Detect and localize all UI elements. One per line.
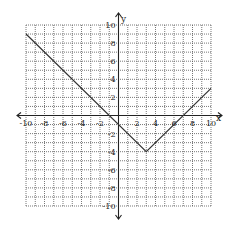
y-tick-label: 2 — [110, 93, 115, 102]
x-tick-label: -4 — [78, 119, 86, 128]
x-tick-label: -6 — [59, 119, 67, 128]
y-tick-label: -4 — [108, 148, 116, 157]
axes — [17, 13, 222, 219]
x-axis-label: x — [216, 113, 221, 123]
y-tick-label: -8 — [108, 184, 116, 193]
coordinate-plane: -10-8-6-4-2246810108642-2-4-6-8-10 x y — [0, 0, 231, 227]
x-tick-label: 4 — [153, 119, 158, 128]
y-tick-label: 8 — [110, 39, 115, 48]
x-tick-label: 10 — [206, 119, 216, 128]
x-tick-label: 8 — [190, 119, 195, 128]
y-axis-label: y — [120, 14, 127, 24]
x-tick-label: -10 — [20, 119, 33, 128]
y-tick-label: 10 — [105, 21, 115, 30]
y-tick-label: -2 — [108, 130, 116, 139]
y-tick-label: 6 — [110, 57, 115, 66]
y-tick-label: 4 — [110, 75, 115, 84]
x-tick-label: 2 — [134, 119, 139, 128]
x-tick-label: -2 — [96, 119, 104, 128]
x-tick-label: -8 — [41, 119, 49, 128]
y-tick-label: -10 — [103, 202, 116, 211]
y-tick-label: -6 — [108, 166, 116, 175]
